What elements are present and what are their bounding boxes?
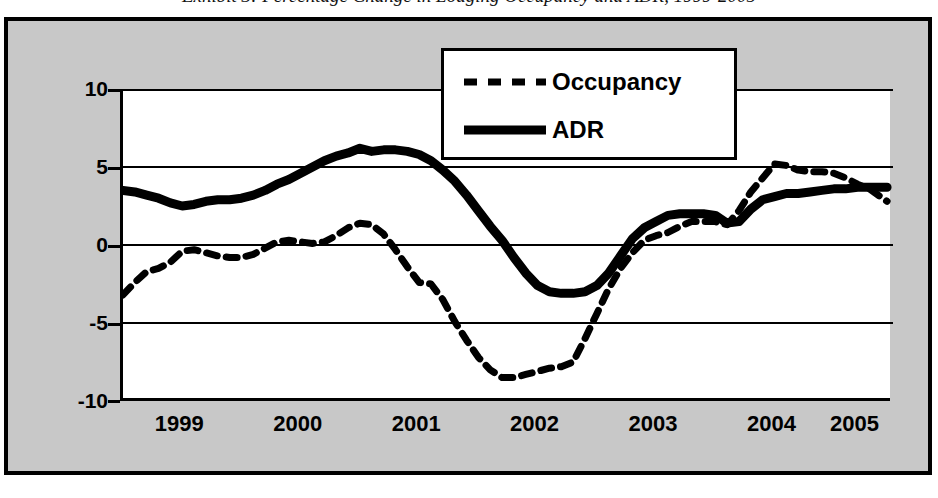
y-tick-mark-10 <box>108 89 120 92</box>
y-tick-mark-0 <box>108 245 120 248</box>
legend-label-occupancy: Occupancy <box>552 68 681 96</box>
x-tick-label-2000: 2000 <box>273 413 322 435</box>
x-tick-label-2001: 2001 <box>392 413 441 435</box>
caption-strip: Exhibit 3: Percentage Change in Lodging … <box>0 0 938 17</box>
chart-legend: Occupancy ADR <box>441 48 737 160</box>
y-tick-mark-5 <box>108 167 120 170</box>
y-tick-label-2: 0 <box>46 234 108 255</box>
y-tick-mark-neg5 <box>108 323 120 326</box>
series-lines <box>123 148 887 377</box>
x-tick-label-2005: 2005 <box>830 413 879 435</box>
chart-frame: 10 5 0 -5 -10 19992000200120022003200420… <box>4 17 932 475</box>
legend-item-occupancy: Occupancy <box>444 57 734 107</box>
y-tick-label-3: -5 <box>46 312 108 333</box>
x-axis-labels: 1999200020012002200320042005 <box>120 413 890 447</box>
legend-key-solid-icon <box>462 119 548 141</box>
legend-label-adr: ADR <box>552 116 604 144</box>
x-tick-label-1999: 1999 <box>155 413 204 435</box>
legend-key-dashed-icon <box>462 71 548 93</box>
y-tick-mark-neg10 <box>108 400 120 403</box>
x-tick-label-2003: 2003 <box>629 413 678 435</box>
chart-screenshot: Exhibit 3: Percentage Change in Lodging … <box>0 0 938 498</box>
y-axis-labels: 10 5 0 -5 -10 <box>30 89 108 401</box>
y-tick-label-4: -10 <box>46 390 108 411</box>
legend-item-adr: ADR <box>444 105 734 155</box>
chart-caption: Exhibit 3: Percentage Change in Lodging … <box>182 0 756 7</box>
y-tick-label-0: 10 <box>46 78 108 99</box>
x-tick-label-2002: 2002 <box>510 413 559 435</box>
y-tick-label-1: 5 <box>46 156 108 177</box>
x-tick-label-2004: 2004 <box>747 413 796 435</box>
